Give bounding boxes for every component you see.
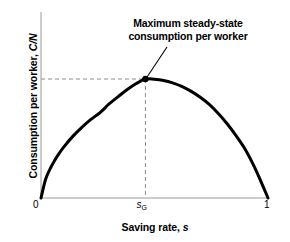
y-axis-label: Consumption per worker, C/N: [27, 11, 39, 201]
peak-annotation-line2: consumption per worker: [104, 30, 272, 43]
y-axis-label-text: Consumption per worker,: [27, 51, 39, 178]
x-axis-label-symbol: s: [183, 221, 189, 233]
peak-annotation: Maximum steady-state consumption per wor…: [104, 17, 272, 42]
x-axis-label: Saving rate, s: [41, 221, 269, 233]
golden-rule-point-marker: [142, 76, 148, 82]
x-tick-label-origin: 0: [33, 199, 39, 210]
annotation-leader-line: [146, 47, 167, 78]
peak-annotation-line1: Maximum steady-state: [104, 17, 272, 30]
chart-figure: Maximum steady-state consumption per wor…: [0, 0, 290, 242]
x-axis-label-text: Saving rate,: [122, 221, 183, 233]
consumption-per-worker-curve: [41, 79, 268, 198]
x-tick-label-one: 1: [264, 199, 270, 210]
y-axis-label-symbol: C/N: [27, 34, 39, 52]
x-tick-label-golden-rule: sG: [136, 199, 146, 210]
x-tick-sg-subscript: G: [141, 204, 146, 211]
